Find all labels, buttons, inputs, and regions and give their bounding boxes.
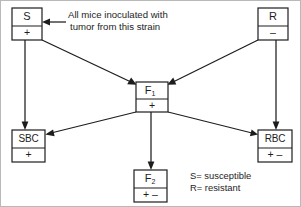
edge-note-to-s-strain [42,19,66,26]
node-f1[interactable]: F1 + [136,82,168,112]
legend: S= susceptible R= resistant [190,170,251,193]
figure-container: S + R – F1 + SBC + [0,0,301,207]
edge-r-to-rbc [273,40,280,130]
edge-f1-to-rbc [168,112,258,136]
edge-r-to-f1 [167,40,258,85]
node-sbc-sign: + [25,148,31,160]
diagram-canvas: S + R – F1 + SBC + [0,0,301,207]
node-s-strain[interactable]: S + [12,8,42,40]
edge-f1-to-sbc [45,112,136,136]
node-rbc[interactable]: RBC + – [258,130,292,162]
node-rbc-label: RBC [265,133,286,144]
inoculation-note-line-1: All mice inoculated with [68,9,168,20]
edge-f1-to-f2 [148,112,155,170]
node-rbc-sign: + – [268,148,283,160]
node-r-strain[interactable]: R – [258,8,288,40]
node-sbc-label: SBC [19,133,39,144]
inoculation-note: All mice inoculated with tumor from this… [68,9,168,32]
node-f2[interactable]: F2 + – [134,170,167,202]
inoculation-note-line-2: tumor from this strain [70,21,160,32]
edge-s-to-f1 [42,40,137,85]
node-r-strain-sign: – [270,26,276,38]
node-f1-sign: + [149,99,155,111]
legend-resistant: R= resistant [190,182,241,193]
node-s-strain-sign: + [24,26,30,38]
legend-susceptible: S= susceptible [190,170,251,181]
node-r-strain-label: R [269,10,277,22]
edge-s-to-sbc [22,40,29,130]
node-sbc[interactable]: SBC + [12,130,45,162]
node-f2-sign: + – [143,188,158,200]
node-s-strain-label: S [23,10,30,22]
